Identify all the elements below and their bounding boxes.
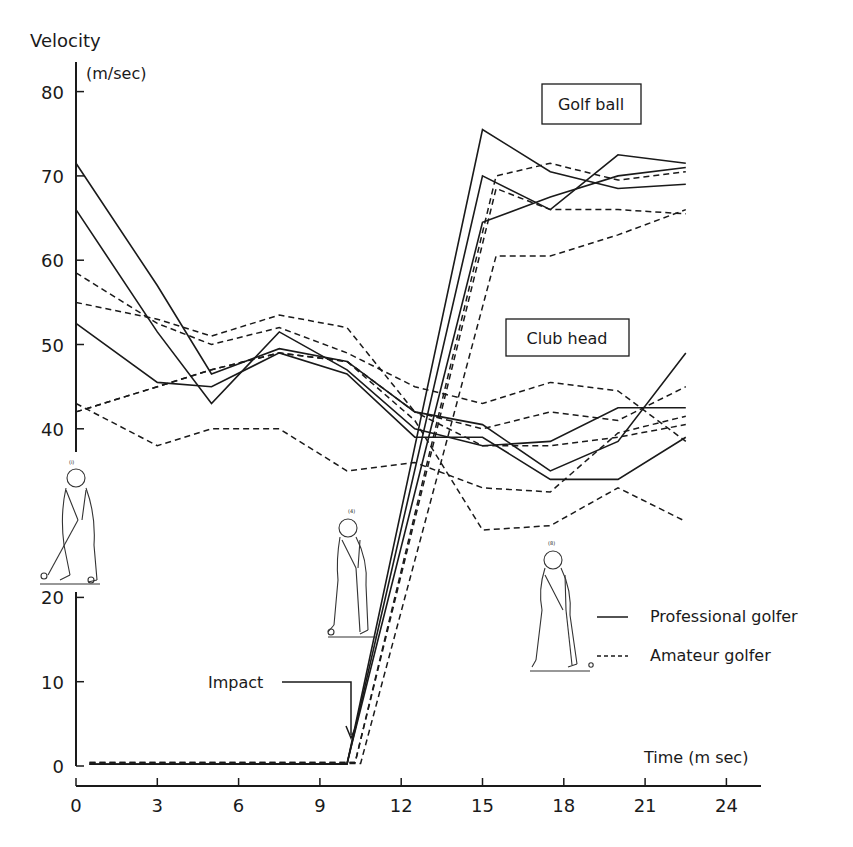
x-axis-title: Time (m sec) — [643, 748, 748, 767]
y-tick-label: 50 — [41, 335, 64, 356]
golf-ball-label: Golf ball — [542, 84, 641, 124]
golfer-address-figure: (i) — [40, 459, 100, 584]
x-tick-label: 18 — [552, 795, 575, 816]
golf-ball-line-professional — [90, 130, 686, 765]
legend-professional: Professional golfer — [650, 607, 798, 626]
y-axis: 405060708001020 — [41, 62, 84, 777]
y-tick-label: 80 — [41, 82, 64, 103]
y-axis-title: Velocity — [30, 30, 101, 51]
y-tick-label: 40 — [41, 419, 64, 440]
x-tick-label: 6 — [233, 795, 244, 816]
x-tick-label: 0 — [70, 795, 81, 816]
golf-ball-line-amateur — [90, 210, 686, 764]
golfer-follow-through-figure: (8) — [530, 540, 593, 671]
x-tick-label: 9 — [314, 795, 325, 816]
y-tick-label: 70 — [41, 166, 64, 187]
y-axis-unit: (m/sec) — [86, 64, 146, 83]
y-tick-label: 0 — [53, 756, 64, 777]
golf-ball-line-professional — [90, 155, 686, 765]
club-head-line-professional — [76, 163, 686, 471]
svg-text:Club head: Club head — [527, 329, 608, 348]
impact-annotation: Impact — [208, 673, 356, 738]
club-head-label: Club head — [506, 319, 629, 356]
club-head-line-amateur — [76, 353, 686, 530]
golfer-impact-figure: (4) — [328, 508, 376, 637]
golf-ball-line-amateur — [90, 163, 686, 762]
svg-text:(8): (8) — [548, 540, 555, 546]
svg-text:(4): (4) — [348, 508, 355, 514]
x-tick-label: 21 — [634, 795, 657, 816]
legend-amateur: Amateur golfer — [650, 646, 771, 665]
y-tick-label: 20 — [41, 587, 64, 608]
svg-text:Impact: Impact — [208, 673, 263, 692]
series-layer — [76, 130, 686, 765]
velocity-chart: 405060708001020 03691215182124 Velocity … — [0, 0, 853, 847]
svg-text:Golf ball: Golf ball — [558, 95, 624, 114]
x-tick-label: 15 — [471, 795, 494, 816]
x-tick-label: 24 — [715, 795, 738, 816]
golf-ball-line-professional — [90, 168, 686, 765]
legend: Professional golfer Amateur golfer — [597, 607, 798, 665]
x-tick-label: 12 — [390, 795, 413, 816]
golf-ball-line-amateur — [90, 189, 686, 763]
x-tick-label: 3 — [152, 795, 163, 816]
x-axis: 03691215182124 — [70, 778, 761, 816]
svg-text:(i): (i) — [69, 459, 74, 465]
y-tick-label: 60 — [41, 250, 64, 271]
club-head-line-amateur — [76, 273, 686, 442]
y-tick-label: 10 — [41, 672, 64, 693]
